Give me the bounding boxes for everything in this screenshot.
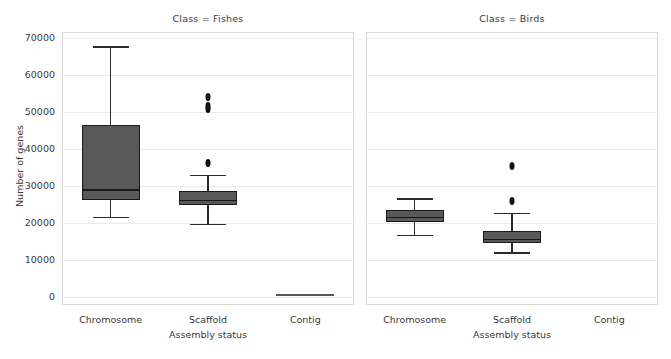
gridline-y xyxy=(63,260,353,261)
median-1-0 xyxy=(386,217,444,219)
whisker-cap-upper-0-1 xyxy=(190,175,226,176)
box-flat-0-2 xyxy=(276,294,334,297)
ytick-label-10000: 10000 xyxy=(25,254,55,265)
whisker-upper-1-1 xyxy=(511,213,512,231)
gridline-y xyxy=(63,75,353,76)
whisker-lower-0-0 xyxy=(110,200,111,217)
outlier-0-1-2 xyxy=(206,102,211,110)
gridline-y xyxy=(367,186,657,187)
whisker-upper-0-1 xyxy=(207,175,208,191)
whisker-upper-0-0 xyxy=(110,46,111,125)
panel-title-0: Class = Fishes xyxy=(62,13,354,24)
outlier-1-1-0 xyxy=(510,197,515,205)
whisker-lower-1-0 xyxy=(414,222,415,235)
outlier-0-1-3 xyxy=(206,93,211,101)
gridline-y xyxy=(367,112,657,113)
boxplot-figure: Class = FishesClass = Birds7000060000500… xyxy=(0,0,671,359)
x-axis-label-0: Assembly status xyxy=(169,329,247,340)
whisker-cap-lower-1-0 xyxy=(397,235,433,236)
ytick-label-70000: 70000 xyxy=(25,32,55,43)
whisker-cap-lower-0-0 xyxy=(93,217,129,218)
whisker-lower-1-1 xyxy=(511,243,512,252)
xtick-label-1-0: Chromosome xyxy=(383,314,446,325)
whisker-cap-lower-1-1 xyxy=(494,252,530,253)
gridline-y xyxy=(63,297,353,298)
median-1-1 xyxy=(483,239,541,241)
whisker-cap-upper-1-1 xyxy=(494,213,530,214)
gridline-y xyxy=(367,149,657,150)
median-0-1 xyxy=(179,200,237,202)
xtick-label-0-0: Chromosome xyxy=(79,314,142,325)
whisker-upper-1-0 xyxy=(414,198,415,210)
gridline-y xyxy=(367,297,657,298)
ytick-label-0: 0 xyxy=(49,291,55,302)
ytick-label-50000: 50000 xyxy=(25,106,55,117)
xtick-label-0-2: Contig xyxy=(290,314,321,325)
xtick-label-1-2: Contig xyxy=(594,314,625,325)
xtick-label-1-1: Scaffold xyxy=(493,314,531,325)
y-axis-label: Number of genes xyxy=(14,124,25,206)
whisker-cap-upper-0-0 xyxy=(93,46,129,47)
outlier-1-1-1 xyxy=(510,162,515,170)
xtick-label-0-1: Scaffold xyxy=(189,314,227,325)
ytick-label-60000: 60000 xyxy=(25,69,55,80)
x-axis-label-1: Assembly status xyxy=(473,329,551,340)
whisker-cap-upper-1-0 xyxy=(397,198,433,199)
median-0-0 xyxy=(82,189,140,191)
ytick-label-40000: 40000 xyxy=(25,143,55,154)
ytick-label-20000: 20000 xyxy=(25,217,55,228)
box-1-1 xyxy=(483,231,541,243)
gridline-y xyxy=(367,38,657,39)
ytick-label-30000: 30000 xyxy=(25,180,55,191)
box-0-1 xyxy=(179,191,237,205)
gridline-y xyxy=(367,260,657,261)
outlier-0-1-0 xyxy=(206,159,211,167)
whisker-cap-lower-0-1 xyxy=(190,224,226,225)
whisker-lower-0-1 xyxy=(207,205,208,224)
gridline-y xyxy=(63,38,353,39)
gridline-y xyxy=(367,75,657,76)
panel-title-1: Class = Birds xyxy=(366,13,658,24)
